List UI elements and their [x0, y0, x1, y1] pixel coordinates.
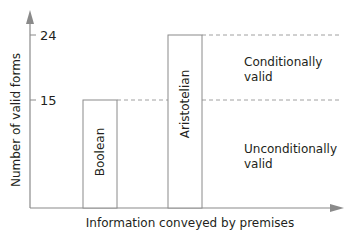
tick-label-24: 24	[40, 28, 57, 43]
chart: 24 15 Boolean Aristotelian Number of val…	[0, 0, 354, 235]
tick-label-15: 15	[40, 93, 57, 108]
annotation-unconditionally-line2: valid	[244, 157, 273, 171]
annotation-conditionally-line2: valid	[244, 70, 273, 84]
x-axis-label: Information conveyed by premises	[86, 216, 294, 230]
y-axis-label: Number of valid forms	[9, 53, 23, 187]
x-axis-arrow-icon	[330, 204, 344, 212]
y-axis-arrow-icon	[26, 10, 34, 24]
annotation-unconditionally-line1: Unconditionally	[244, 142, 337, 156]
bar-label-aristotelian: Aristotelian	[178, 70, 192, 139]
bar-label-boolean: Boolean	[93, 128, 107, 177]
annotation-conditionally-line1: Conditionally	[244, 55, 322, 69]
